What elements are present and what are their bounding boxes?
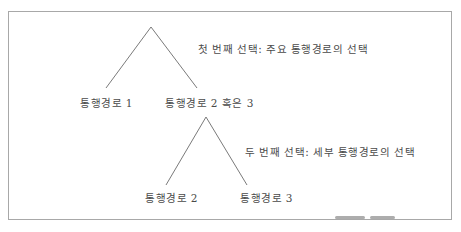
decision-tree-lines (0, 0, 461, 232)
node-route-1: 통행경로 1 (80, 95, 133, 110)
second-choice-annotation: 두 번째 선택: 세부 통행경로의 선택 (245, 144, 415, 159)
second-choice-branch (166, 117, 247, 185)
node-route-2: 통행경로 2 (145, 190, 198, 205)
scan-smudge (370, 216, 395, 219)
scan-smudge (335, 216, 365, 219)
first-choice-annotation: 첫 번째 선택: 주요 통행경로의 선택 (198, 41, 368, 56)
node-route-2-or-3: 통행경로 2 혹은 3 (165, 95, 254, 110)
node-route-3: 통행경로 3 (240, 190, 293, 205)
first-choice-branch (106, 27, 197, 88)
